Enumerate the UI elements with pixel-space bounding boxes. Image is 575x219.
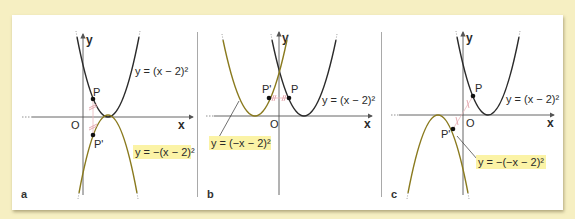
curve-continuation [139, 31, 140, 37]
curve-continuation [137, 193, 138, 199]
curve-continuation [468, 193, 469, 199]
point-p-prime-label: P' [94, 138, 103, 150]
x-axis-label: x [547, 116, 554, 130]
point-p-prime [267, 96, 272, 101]
original-equation-label: y = (x − 2)² [506, 93, 560, 105]
original-equation-label: y = (x − 2)² [135, 65, 189, 77]
original-parabola [77, 37, 139, 117]
curve-continuation [222, 34, 223, 40]
reflected-parabola [408, 115, 468, 193]
curve-continuation [78, 193, 79, 199]
origin-label: O [71, 119, 80, 131]
origin-label: O [466, 117, 475, 129]
label-leader-line [219, 101, 239, 137]
transformed-equation-label: y = −(−x − 2)² [478, 156, 544, 168]
curve-continuation [519, 31, 520, 37]
origin-label: O [270, 118, 279, 130]
curve-continuation [336, 34, 337, 40]
reflected-parabola [223, 40, 287, 116]
reflected-parabola [79, 115, 137, 193]
y-axis-label: y [86, 33, 93, 47]
point-p [287, 96, 292, 101]
point-p-prime-label: P' [262, 83, 271, 95]
point-p-prime [451, 127, 456, 132]
point-p [471, 94, 476, 99]
point-p-label: P [291, 83, 298, 95]
x-axis-label: x [364, 117, 371, 131]
transformed-equation-label: y = (−x − 2)² [211, 137, 271, 149]
curve-continuation [271, 34, 272, 40]
panel-b: y x O P' P y = (x − 2)² y = (−x − 2)² [206, 31, 376, 195]
point-p-label: P [93, 86, 100, 98]
curve-continuation [76, 31, 77, 37]
curve-continuation [407, 193, 408, 199]
original-equation-label: y = (x − 2)² [322, 94, 376, 106]
curve-continuation [456, 31, 457, 37]
y-axis-label: y [466, 31, 473, 45]
x-axis-label: x [178, 118, 185, 132]
point-p-prime-label: P' [441, 128, 450, 140]
panel-a: y x O P P' y = (x − 2)² y = −(x − 2)² [22, 31, 195, 199]
transformed-equation-label: y = −(x − 2)² [135, 146, 195, 158]
panel-c: y x O P P' y = (x − 2)² y = −(−x − 2)² [391, 31, 560, 199]
point-p-prime [91, 133, 96, 138]
parabola-diagrams: y x O P P' y = (x − 2)² y = −(x − 2)² y … [0, 0, 575, 219]
y-axis-label: y [282, 31, 289, 45]
point-p-label: P [475, 82, 482, 94]
